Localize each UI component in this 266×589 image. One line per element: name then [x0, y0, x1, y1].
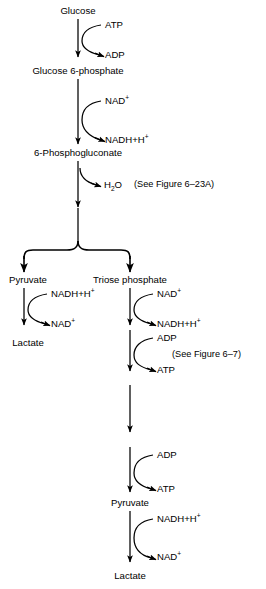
arrowhead-water — [91, 183, 101, 186]
cofactor-nad-out-left: NAD+ — [51, 319, 75, 329]
cofactor-nadh-in-left-text: NADH+H — [51, 288, 91, 299]
cofactor-adp-in-right: ADP — [157, 333, 177, 343]
curve-adp-to-atp-right — [134, 338, 153, 370]
cofactor-nadh-out-2-text: NADH+H — [105, 134, 145, 145]
cofactor-nad-out-bottom: NAD+ — [157, 552, 181, 562]
metabolite-glucose: Glucose — [60, 6, 95, 16]
water-o: O — [115, 179, 122, 190]
curve-adp-to-atp-bottom — [134, 455, 153, 489]
cofactor-water-out: H2O — [104, 180, 122, 190]
cofactor-nadh-out-right-text: NADH+H — [157, 318, 197, 329]
annotation-figure-ref-2: (See Figure 6–7) — [172, 350, 241, 359]
curve-atp-to-adp — [82, 25, 101, 55]
metabolite-pyruvate-bottom: Pyruvate — [111, 498, 149, 508]
branch-left-connector — [24, 241, 78, 259]
metabolite-6-phosphogluconate: 6-Phosphogluconate — [34, 148, 122, 158]
arrowhead-nadh-right — [147, 322, 156, 325]
curve-nad-to-nadh — [82, 101, 101, 140]
metabolite-triose-phosphate: Triose phosphate — [93, 275, 167, 285]
arrowhead-nadh-2 — [95, 138, 105, 142]
cofactor-nadh-in-bottom: NADH+H+ — [157, 514, 201, 524]
curve-nadh-to-nad-bottom — [134, 519, 153, 558]
cofactor-nad-out-bottom-text: NAD — [157, 551, 177, 562]
metabolite-pyruvate-left: Pyruvate — [9, 275, 47, 285]
arrowhead-atp-right — [147, 368, 156, 371]
cofactor-nadh-in-bottom-text: NADH+H — [157, 513, 197, 524]
superscript-plus: + — [91, 287, 95, 294]
curve-water-out — [80, 168, 96, 185]
superscript-plus: + — [145, 133, 149, 140]
cofactor-nad-in-2: NAD+ — [105, 96, 129, 106]
superscript-plus: + — [125, 94, 129, 101]
cofactor-adp-out-1: ADP — [105, 50, 125, 60]
annotation-figure-ref-1: (See Figure 6–23A) — [134, 180, 214, 189]
cofactor-adp-in-bottom: ADP — [157, 450, 177, 460]
cofactor-atp-out-bottom: ATP — [157, 484, 175, 494]
metabolite-glucose-6-phosphate: Glucose 6-phosphate — [32, 66, 123, 76]
pathway-diagram: Glucose ATP ADP Glucose 6-phosphate NAD+… — [0, 0, 266, 589]
water-h: H — [104, 179, 111, 190]
cofactor-nad-in-right: NAD+ — [157, 289, 181, 299]
cofactor-nad-in-2-text: NAD — [105, 95, 125, 106]
arrowhead-nad-bottom — [147, 556, 156, 559]
superscript-plus: + — [71, 317, 75, 324]
superscript-plus: + — [197, 512, 201, 519]
cofactor-nadh-in-left: NADH+H+ — [51, 289, 95, 299]
arrowhead-nad-left — [41, 322, 50, 325]
cofactor-nadh-out-right: NADH+H+ — [157, 319, 201, 329]
cofactor-atp-in-1: ATP — [105, 20, 123, 30]
cofactor-nad-out-left-text: NAD — [51, 318, 71, 329]
arrowhead-atp-bottom — [147, 487, 156, 490]
metabolite-lactate-bottom: Lactate — [114, 571, 145, 581]
superscript-plus: + — [197, 317, 201, 324]
cofactor-atp-out-right: ATP — [157, 365, 175, 375]
superscript-plus: + — [177, 550, 181, 557]
branch-right-connector — [78, 241, 130, 259]
metabolite-lactate-left: Lactate — [12, 338, 43, 348]
arrowhead-adp — [95, 53, 104, 56]
cofactor-nadh-out-2: NADH+H+ — [105, 135, 149, 145]
curve-nad-to-nadh-right — [134, 294, 153, 324]
cofactor-nad-in-right-text: NAD — [157, 288, 177, 299]
superscript-plus: + — [177, 287, 181, 294]
curve-nadh-to-nad-left — [28, 294, 47, 324]
